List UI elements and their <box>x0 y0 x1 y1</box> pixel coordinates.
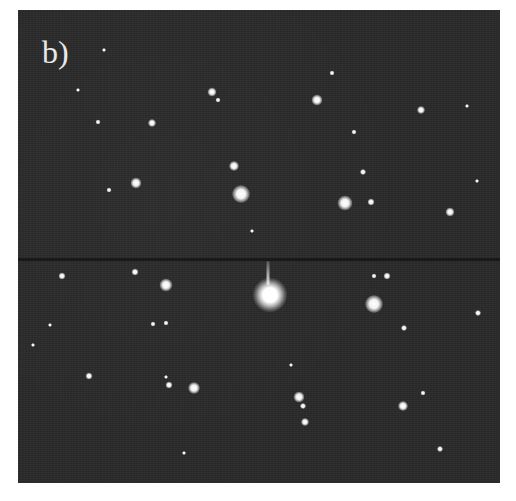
diffraction-spot <box>96 120 101 125</box>
diffraction-spot <box>229 161 239 171</box>
diffraction-spot <box>372 274 377 279</box>
diffraction-spot <box>48 323 52 327</box>
diffraction-spot <box>465 104 469 108</box>
diffraction-spot <box>151 322 156 327</box>
diffraction-spot <box>312 95 323 106</box>
diffraction-spot <box>338 196 353 211</box>
central-beam-spot <box>253 278 287 312</box>
diffraction-spot <box>360 169 366 175</box>
diffraction-spot <box>166 382 173 389</box>
diffraction-spot <box>131 178 142 189</box>
diffraction-spot <box>368 199 375 206</box>
diffraction-spot <box>250 229 254 233</box>
diffraction-spot <box>365 295 383 313</box>
panel-label: b) <box>42 34 69 71</box>
detector-scanline <box>18 258 500 261</box>
diffraction-spot <box>31 343 35 347</box>
diffraction-spot <box>421 391 426 396</box>
diffraction-spot <box>164 321 169 326</box>
diffraction-spot <box>398 401 408 411</box>
diffraction-spot <box>289 363 293 367</box>
diffraction-spot <box>330 71 335 76</box>
diffraction-spot <box>475 310 481 316</box>
diffraction-spot <box>216 98 221 103</box>
diffraction-spot <box>76 88 80 92</box>
diffraction-spot <box>59 273 66 280</box>
diffraction-spot <box>208 88 217 97</box>
diffraction-spot <box>86 373 93 380</box>
diffraction-spot <box>300 403 306 409</box>
diffraction-spot <box>132 269 139 276</box>
diffraction-spot <box>437 446 443 452</box>
diffraction-spot <box>164 375 168 379</box>
diffraction-spot <box>352 130 357 135</box>
diffraction-spot <box>401 325 407 331</box>
diffraction-spot <box>446 208 455 217</box>
diffraction-spot <box>107 188 112 193</box>
diffraction-spot <box>417 106 425 114</box>
diffraction-spot <box>182 451 186 455</box>
diffraction-spot <box>384 273 391 280</box>
diffraction-spot <box>294 392 305 403</box>
diffraction-spot <box>188 382 200 394</box>
diffraction-spot <box>475 179 479 183</box>
diffraction-spot <box>232 185 250 203</box>
diffraction-pattern-image: b) <box>18 10 500 483</box>
diffraction-spot <box>148 119 156 127</box>
diffraction-spot <box>160 279 173 292</box>
diffraction-spot <box>102 48 106 52</box>
diffraction-spot <box>301 418 309 426</box>
